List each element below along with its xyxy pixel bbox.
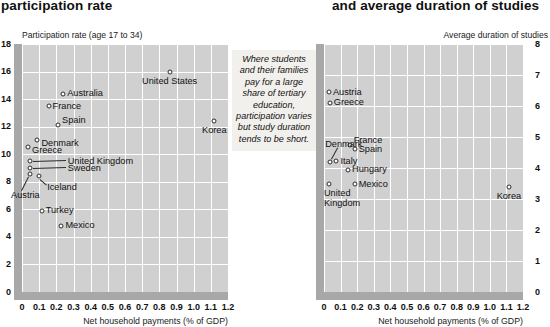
duration-xtick: 0.6 bbox=[417, 303, 430, 312]
gridline-horizontal bbox=[324, 44, 523, 45]
data-point-label: Austria bbox=[333, 87, 362, 97]
duration-xtick: 1.0 bbox=[484, 303, 497, 312]
data-point-marker[interactable] bbox=[506, 184, 511, 189]
duration-ytick: 2 bbox=[535, 226, 540, 235]
duration-ytick: 6 bbox=[535, 102, 540, 111]
duration-ytick: 1 bbox=[535, 257, 540, 266]
duration-ytick: 5 bbox=[535, 133, 540, 142]
duration-xtick: 0.4 bbox=[384, 303, 397, 312]
data-point-marker[interactable] bbox=[352, 182, 357, 187]
duration-xtick: 1.1 bbox=[500, 303, 513, 312]
duration-xtick: 0.3 bbox=[367, 303, 380, 312]
data-point-marker[interactable] bbox=[327, 159, 332, 164]
duration-xtick: 0.5 bbox=[401, 303, 414, 312]
data-point-label: United Kingdom bbox=[324, 188, 376, 208]
duration-ytick: 0 bbox=[535, 288, 540, 297]
duration-ytick: 4 bbox=[535, 164, 540, 173]
data-point-label: Korea bbox=[497, 191, 522, 201]
duration-xtick: 0.8 bbox=[450, 303, 463, 312]
gridline-horizontal bbox=[324, 261, 523, 262]
duration-xtick: 0.2 bbox=[351, 303, 364, 312]
duration-left-gutter-band bbox=[316, 44, 324, 292]
infographic-root: participation rate and average duration … bbox=[0, 0, 550, 327]
duration-xlabel: Net household payments (% of GDP) bbox=[378, 316, 523, 326]
pull-quote: Where students and their families pay fo… bbox=[232, 50, 316, 151]
duration-xtick: 0.7 bbox=[434, 303, 447, 312]
duration-xtick: 0 bbox=[321, 303, 326, 312]
duration-ytick: 8 bbox=[535, 40, 540, 49]
data-point-marker[interactable] bbox=[346, 167, 351, 172]
data-point-marker[interactable] bbox=[334, 159, 339, 164]
duration-xtick: 1.2 bbox=[517, 303, 530, 312]
data-point-marker[interactable] bbox=[327, 100, 332, 105]
duration-xtick: 0.1 bbox=[334, 303, 347, 312]
gridline-horizontal bbox=[324, 75, 523, 76]
data-point-marker[interactable] bbox=[326, 90, 331, 95]
duration-xtick: 0.9 bbox=[467, 303, 480, 312]
data-point-label: Greece bbox=[334, 97, 364, 107]
duration-ytick: 7 bbox=[535, 71, 540, 80]
data-point-label: Denmark bbox=[325, 139, 362, 149]
data-point-label: Hungary bbox=[352, 164, 387, 174]
duration-ytick: 3 bbox=[535, 195, 540, 204]
data-point-marker[interactable] bbox=[326, 181, 331, 186]
gridline-horizontal bbox=[324, 230, 523, 231]
duration-bottom-gutter-band bbox=[316, 292, 523, 300]
